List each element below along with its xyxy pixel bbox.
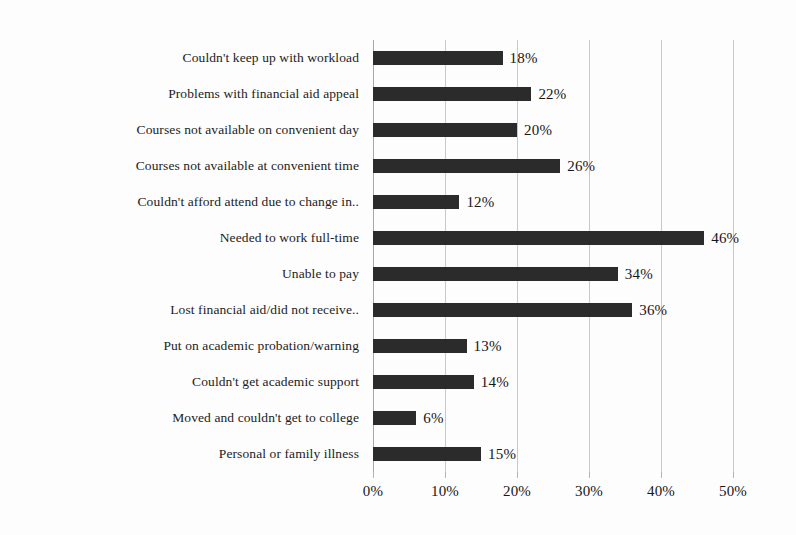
bar-value-label: 12%	[466, 195, 494, 210]
bar	[373, 87, 531, 101]
x-tick-label: 10%	[431, 484, 459, 499]
bar-value-label: 46%	[711, 231, 739, 246]
bar-row: 6%	[373, 400, 796, 436]
bar-chart: Couldn't keep up with workloadProblems w…	[0, 0, 796, 535]
x-tick-label: 0%	[363, 484, 383, 499]
category-label: Couldn't get academic support	[192, 364, 359, 400]
x-tick-label: 40%	[647, 484, 675, 499]
category-label: Couldn't keep up with workload	[183, 40, 359, 76]
bar-value-label: 18%	[510, 51, 538, 66]
category-label: Put on academic probation/warning	[163, 328, 359, 364]
bar-value-label: 13%	[474, 339, 502, 354]
bar-row: 36%	[373, 292, 796, 328]
bar-row: 18%	[373, 40, 796, 76]
category-label: Unable to pay	[282, 256, 359, 292]
bar	[373, 411, 416, 425]
bar-value-label: 26%	[567, 159, 595, 174]
bar-row: 46%	[373, 220, 796, 256]
category-axis-labels: Couldn't keep up with workloadProblems w…	[0, 40, 366, 472]
x-tick-mark	[733, 472, 734, 478]
bar	[373, 447, 481, 461]
bar-row: 14%	[373, 364, 796, 400]
bar	[373, 51, 503, 65]
x-axis: 0%10%20%30%40%50%	[373, 472, 733, 512]
bar	[373, 267, 618, 281]
bar-row: 20%	[373, 112, 796, 148]
bar	[373, 159, 560, 173]
bar-row: 12%	[373, 184, 796, 220]
bar	[373, 339, 467, 353]
bar	[373, 375, 474, 389]
x-tick-label: 50%	[719, 484, 747, 499]
bar-row: 15%	[373, 436, 796, 472]
bar-value-label: 22%	[538, 87, 566, 102]
x-tick-mark	[517, 472, 518, 478]
bar-value-label: 15%	[488, 447, 516, 462]
plot-area: 18%22%20%26%12%46%34%36%13%14%6%15%	[373, 40, 733, 472]
bar-value-label: 36%	[639, 303, 667, 318]
category-label: Needed to work full-time	[220, 220, 359, 256]
category-label: Lost financial aid/did not receive..	[170, 292, 359, 328]
bar-value-label: 34%	[625, 267, 653, 282]
bar	[373, 195, 459, 209]
bar-value-label: 20%	[524, 123, 552, 138]
category-label: Couldn't afford attend due to change in.…	[138, 184, 359, 220]
bar-row: 34%	[373, 256, 796, 292]
bar-row: 22%	[373, 76, 796, 112]
category-label: Problems with financial aid appeal	[168, 76, 359, 112]
category-label: Courses not available on convenient day	[137, 112, 359, 148]
x-tick-mark	[589, 472, 590, 478]
category-label: Personal or family illness	[219, 436, 359, 472]
x-tick-mark	[445, 472, 446, 478]
bar	[373, 303, 632, 317]
bar-rows: 18%22%20%26%12%46%34%36%13%14%6%15%	[373, 40, 733, 472]
bar	[373, 231, 704, 245]
bar	[373, 123, 517, 137]
x-tick-mark	[661, 472, 662, 478]
bar-row: 26%	[373, 148, 796, 184]
x-tick-mark	[373, 472, 374, 478]
bar-value-label: 6%	[423, 411, 443, 426]
category-label: Moved and couldn't get to college	[172, 400, 359, 436]
bar-value-label: 14%	[481, 375, 509, 390]
bar-row: 13%	[373, 328, 796, 364]
x-tick-label: 20%	[503, 484, 531, 499]
x-tick-label: 30%	[575, 484, 603, 499]
category-label: Courses not available at convenient time	[136, 148, 359, 184]
